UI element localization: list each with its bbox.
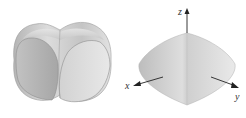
y-arrow-icon (231, 82, 239, 88)
z-axis-label: z (177, 6, 182, 17)
axes-solid-surface: z x y (123, 0, 246, 118)
axes-solid-figure: z x y (123, 0, 246, 118)
x-arrow-icon (133, 81, 141, 86)
z-arrow-icon (185, 8, 190, 14)
bicylinder-surface (0, 0, 123, 118)
y-axis-label: y (234, 91, 240, 102)
x-axis-label: x (124, 80, 130, 91)
bicylinder-figure (0, 0, 123, 118)
